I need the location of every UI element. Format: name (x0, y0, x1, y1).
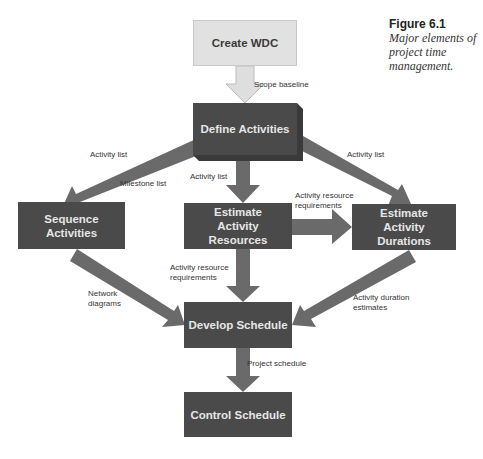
node-define-activities-label: Define Activities (200, 122, 289, 136)
node-sequence-activities-label: Sequence Activities (18, 212, 125, 240)
figure-description: Major elements of project time managemen… (389, 31, 481, 73)
arrow-resources-to-durations (292, 209, 352, 244)
label-activity-list-left: Activity list (90, 150, 127, 160)
label-project-schedule: Project schedule (247, 359, 306, 369)
arrow-define-to-sequence (63, 138, 206, 210)
arrow-develop-to-control (226, 348, 260, 392)
label-milestone-list: Milestone list (120, 179, 166, 189)
label-resource-req-down-1: Activity resource (170, 263, 229, 273)
label-network-diagrams-1: Network (88, 289, 117, 299)
node-estimate-resources-label: Estimate Activity Resources (196, 205, 280, 247)
label-resource-req-down-2: requirements (170, 273, 217, 283)
node-control-schedule: Control Schedule (184, 392, 292, 437)
node-define-activities: Define Activities (193, 103, 297, 155)
arrow-resources-to-develop (226, 249, 260, 302)
node-create-wbs: Create WDC (193, 20, 297, 66)
figure-caption: Figure 6.1 Major elements of project tim… (389, 17, 481, 73)
node-develop-schedule: Develop Schedule (184, 302, 292, 348)
label-network-diagrams-2: diagrams (88, 299, 121, 309)
label-duration-estimates-1: Activity duration (353, 293, 409, 303)
label-resource-req-right-1: Activity resource (295, 191, 354, 201)
label-activity-list-center: Activity list (190, 172, 227, 182)
node-estimate-durations: Estimate Activity Durations (352, 204, 456, 250)
node-develop-schedule-label: Develop Schedule (188, 318, 287, 332)
arrow-sequence-to-develop (70, 249, 185, 327)
label-resource-req-right-2: requirements (295, 201, 342, 211)
arrow-define-to-resources (226, 155, 260, 203)
node-estimate-resources: Estimate Activity Resources (184, 203, 292, 249)
arrow-durations-to-develop (292, 250, 416, 327)
node-create-wbs-label: Create WDC (212, 36, 278, 50)
node-sequence-activities: Sequence Activities (18, 202, 125, 249)
label-activity-list-right: Activity list (347, 150, 384, 160)
label-scope-baseline: Scope baseline (254, 80, 309, 90)
node-estimate-durations-label: Estimate Activity Durations (362, 206, 446, 248)
label-duration-estimates-2: estimates (353, 303, 387, 313)
figure-number: Figure 6.1 (389, 17, 481, 31)
node-control-schedule-label: Control Schedule (190, 408, 285, 422)
